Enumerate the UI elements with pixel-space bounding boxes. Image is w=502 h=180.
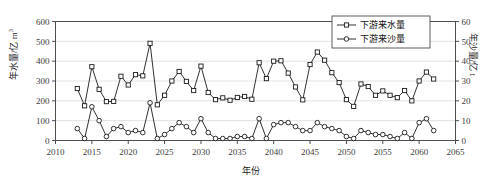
series-marker-sediment	[133, 128, 138, 133]
series-marker-sediment	[213, 136, 218, 141]
y-axis-left-tick-label: 0	[45, 136, 50, 146]
legend-label-water: 下游来水量	[360, 19, 405, 30]
series-marker-water	[141, 74, 145, 78]
series-marker-sediment	[82, 136, 87, 141]
series-marker-sediment	[235, 134, 240, 139]
series-marker-water	[344, 98, 348, 102]
series-marker-water	[97, 87, 101, 91]
chart-container: 年水量/亿 m3 年沙量/亿 t 年份 20102015202020252030…	[0, 0, 502, 180]
legend-marker-sediment	[344, 37, 349, 42]
y-axis-left-tick-label: 600	[36, 17, 50, 27]
series-marker-sediment	[300, 128, 305, 133]
series-marker-sediment	[191, 130, 196, 135]
series-marker-water	[366, 84, 370, 88]
series-marker-sediment	[170, 126, 175, 131]
series-marker-sediment	[293, 124, 298, 129]
series-marker-sediment	[279, 120, 284, 125]
series-marker-water	[388, 93, 392, 97]
series-marker-water	[417, 79, 421, 83]
series-marker-sediment	[271, 122, 276, 127]
series-marker-sediment	[351, 136, 356, 141]
series-line-water	[77, 43, 433, 106]
series-marker-sediment	[424, 116, 429, 121]
series-marker-water	[432, 77, 436, 81]
x-axis-tick-label: 2040	[265, 147, 284, 157]
series-marker-water	[75, 86, 79, 90]
series-marker-water	[184, 79, 188, 83]
series-marker-water	[104, 100, 108, 104]
series-marker-water	[272, 59, 276, 63]
series-marker-sediment	[359, 128, 364, 133]
y-axis-right-tick-label: 60	[462, 17, 472, 27]
series-marker-water	[315, 50, 319, 54]
y-axis-left-tick-label: 400	[36, 56, 50, 66]
legend-label-sediment: 下游来沙量	[360, 33, 405, 44]
legend-marker-water	[344, 23, 348, 27]
series-marker-sediment	[242, 134, 247, 139]
series-marker-water	[352, 104, 356, 108]
series-marker-water	[242, 94, 246, 98]
series-marker-sediment	[155, 136, 160, 141]
series-marker-sediment	[330, 126, 335, 131]
x-axis-tick-label: 2035	[228, 147, 247, 157]
x-axis-tick-label: 2045	[301, 147, 320, 157]
series-marker-water	[293, 85, 297, 89]
series-marker-sediment	[322, 124, 327, 129]
y-axis-left-tick-label: 300	[36, 76, 50, 86]
y-axis-left-tick-label: 100	[36, 116, 50, 126]
series-marker-sediment	[366, 130, 371, 135]
series-marker-sediment	[90, 104, 95, 109]
series-marker-water	[235, 95, 239, 99]
series-marker-sediment	[148, 101, 153, 106]
series-marker-sediment	[388, 134, 393, 139]
series-marker-sediment	[104, 134, 109, 139]
chart-plot: 2010201520202025203020352040204520502055…	[0, 0, 502, 180]
series-marker-sediment	[111, 126, 116, 131]
series-marker-water	[133, 73, 137, 77]
y-axis-right-tick-label: 50	[462, 37, 472, 47]
series-marker-water	[90, 65, 94, 69]
x-axis-tick-label: 2060	[410, 147, 429, 157]
x-axis-tick-label: 2055	[374, 147, 393, 157]
series-marker-water	[381, 89, 385, 93]
series-marker-water	[119, 74, 123, 78]
series-marker-water	[322, 58, 326, 62]
series-marker-water	[206, 90, 210, 94]
y-axis-right-tick-label: 30	[462, 76, 472, 86]
series-marker-sediment	[431, 128, 436, 133]
series-marker-water	[373, 93, 377, 97]
series-marker-water	[155, 103, 159, 107]
series-marker-water	[257, 61, 261, 65]
x-axis-tick-label: 2020	[119, 147, 138, 157]
series-marker-water	[410, 99, 414, 103]
series-marker-sediment	[119, 124, 124, 129]
series-marker-water	[301, 98, 305, 102]
series-marker-sediment	[206, 130, 211, 135]
series-marker-sediment	[184, 124, 189, 129]
series-marker-water	[170, 79, 174, 83]
series-marker-sediment	[315, 120, 320, 125]
series-marker-water	[286, 71, 290, 75]
series-marker-water	[213, 98, 217, 102]
series-marker-sediment	[373, 132, 378, 137]
series-marker-water	[126, 83, 130, 87]
y-axis-right-tick-label: 0	[462, 136, 467, 146]
series-marker-sediment	[264, 136, 269, 141]
x-axis-tick-label: 2065	[447, 147, 466, 157]
y-axis-right-tick-label: 40	[462, 56, 472, 66]
series-marker-water	[199, 64, 203, 68]
series-marker-water	[148, 41, 152, 45]
series-marker-sediment	[380, 132, 385, 137]
series-marker-sediment	[220, 136, 225, 141]
x-axis-tick-label: 2010	[47, 147, 66, 157]
series-marker-water	[177, 69, 181, 73]
x-axis-tick-label: 2015	[83, 147, 102, 157]
series-marker-sediment	[402, 130, 407, 135]
y-axis-right-tick-label: 10	[462, 116, 472, 126]
series-marker-water	[308, 62, 312, 66]
series-marker-water	[221, 96, 225, 100]
series-marker-sediment	[75, 126, 80, 131]
series-marker-water	[330, 71, 334, 75]
series-marker-sediment	[228, 136, 233, 141]
series-marker-sediment	[250, 136, 255, 141]
